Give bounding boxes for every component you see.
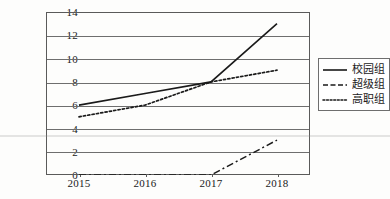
legend-item-chaojizu: 超级组 — [322, 77, 385, 92]
series-line-chaojizu — [79, 140, 277, 175]
x-tick-label-2015: 2015 — [56, 178, 102, 189]
x-tick-label-2017: 2017 — [188, 178, 234, 189]
legend-label-gaozhizu: 高职组 — [352, 94, 385, 105]
series-line-gaozhizu — [79, 70, 277, 117]
x-tick-label-2016: 2016 — [122, 178, 168, 189]
legend-label-xiaoyuanzu: 校园组 — [352, 64, 385, 75]
legend: 校园组 超级组 高职组 — [318, 58, 390, 111]
line-chart: 14 12 10 8 6 4 2 0 2015 2016 2017 2018 校… — [0, 0, 390, 199]
legend-dashdot-line-icon — [322, 80, 348, 90]
legend-item-xiaoyuanzu: 校园组 — [322, 62, 385, 77]
legend-dotted-line-icon — [322, 95, 348, 105]
x-tick-label-2018: 2018 — [254, 178, 300, 189]
legend-item-gaozhizu: 高职组 — [322, 92, 385, 107]
legend-solid-line-icon — [322, 65, 348, 75]
series-layer — [46, 12, 310, 175]
legend-label-chaojizu: 超级组 — [352, 79, 385, 90]
